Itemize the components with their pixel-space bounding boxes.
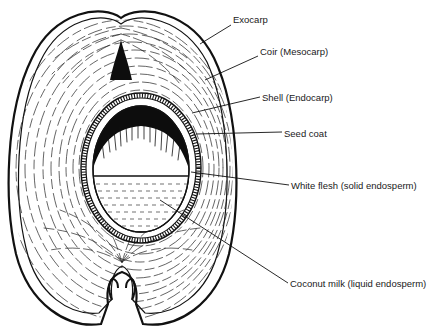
label-seed-coat: Seed coat	[284, 128, 327, 139]
label-shell-endocarp: Shell (Endocarp)	[262, 92, 333, 103]
label-coir-mesocarp: Coir (Mesocarp)	[260, 46, 328, 57]
label-white-flesh: White flesh (solid endosperm)	[291, 180, 417, 191]
apex-wedge	[110, 40, 132, 80]
base-notch	[109, 279, 135, 300]
label-coconut-milk: Coconut milk (liquid endosperm)	[290, 278, 426, 289]
label-exocarp: Exocarp	[233, 14, 268, 25]
